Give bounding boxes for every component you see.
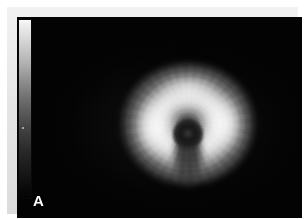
colorbar-tick-marker xyxy=(22,127,24,129)
polar-lateral-lobe-left xyxy=(133,99,175,157)
panel-label: A xyxy=(33,193,44,208)
polar-lateral-lobe-right xyxy=(203,95,245,153)
figure-root: A xyxy=(0,0,305,219)
colorbar-max-edge xyxy=(19,20,31,22)
polar-bullseye-map xyxy=(115,57,261,191)
grayscale-colorbar xyxy=(19,20,31,198)
image-canvas: A xyxy=(17,17,302,218)
polar-core-speck xyxy=(184,130,192,137)
figure-frame: A xyxy=(7,7,298,214)
polar-superior-lobe xyxy=(159,73,217,107)
